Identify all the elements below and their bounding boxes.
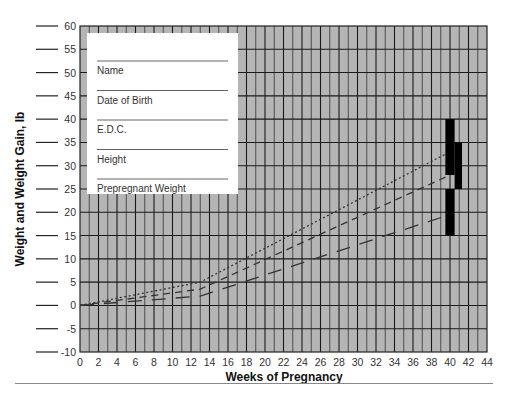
- target-range-bar: [445, 189, 454, 236]
- x-tick-label: 16: [222, 356, 234, 368]
- y-tick-label: -10: [61, 346, 76, 358]
- x-tick-label: 24: [296, 356, 308, 368]
- y-tick-label: 30: [64, 160, 76, 172]
- x-tick-label: 2: [96, 356, 102, 368]
- y-tick-label: 60: [64, 20, 76, 32]
- target-range-bar: [455, 142, 462, 189]
- x-tick-label: 28: [333, 356, 345, 368]
- y-tick-label: 15: [64, 230, 76, 242]
- x-tick-label: 36: [407, 356, 419, 368]
- y-axis-ticks: -10-5051015202530354045505560: [36, 20, 76, 358]
- x-axis-ticks: 0246810121416182022242628303234363840424…: [77, 356, 493, 368]
- y-tick-label: 5: [70, 276, 76, 288]
- weight-gain-chart: -10-5051015202530354045505560 0246810121…: [0, 0, 509, 410]
- x-tick-label: 4: [114, 356, 120, 368]
- patient-info-inset: NameDate of BirthE.D.C.HeightPrepregnant…: [87, 33, 238, 194]
- x-tick-label: 20: [259, 356, 271, 368]
- inset-field-label: Height: [97, 154, 126, 165]
- y-tick-label: 20: [64, 206, 76, 218]
- x-axis-title: Weeks of Pregnancy: [225, 370, 342, 384]
- y-tick-label: 55: [64, 43, 76, 55]
- bottom-divider: [15, 383, 493, 384]
- x-tick-label: 8: [151, 356, 157, 368]
- x-tick-label: 22: [278, 356, 290, 368]
- x-tick-label: 30: [352, 356, 364, 368]
- x-tick-label: 44: [481, 356, 493, 368]
- x-tick-label: 6: [133, 356, 139, 368]
- target-range-bar: [445, 119, 454, 175]
- x-tick-label: 34: [389, 356, 401, 368]
- inset-field-label: Name: [97, 65, 124, 76]
- y-tick-label: 0: [70, 299, 76, 311]
- x-tick-label: 42: [463, 356, 475, 368]
- inset-field-label: Date of Birth: [97, 95, 153, 106]
- y-tick-label: 25: [64, 183, 76, 195]
- x-tick-label: 12: [185, 356, 197, 368]
- y-tick-label: 45: [64, 90, 76, 102]
- x-tick-label: 14: [204, 356, 216, 368]
- x-tick-label: 18: [241, 356, 253, 368]
- y-tick-label: 50: [64, 67, 76, 79]
- x-tick-label: 40: [444, 356, 456, 368]
- y-tick-label: 40: [64, 113, 76, 125]
- x-tick-label: 0: [77, 356, 83, 368]
- x-tick-label: 26: [315, 356, 327, 368]
- x-tick-label: 10: [167, 356, 179, 368]
- inset-field-label: E.D.C.: [97, 124, 126, 135]
- x-tick-label: 38: [426, 356, 438, 368]
- inset-box: [87, 33, 238, 194]
- x-tick-label: 32: [370, 356, 382, 368]
- y-axis-title: Weight and Weight Gain, lb: [13, 112, 27, 267]
- inset-field-label: Prepregnant Weight: [97, 183, 186, 194]
- y-tick-label: -5: [67, 323, 76, 335]
- y-tick-label: 35: [64, 136, 76, 148]
- y-tick-label: 10: [64, 253, 76, 265]
